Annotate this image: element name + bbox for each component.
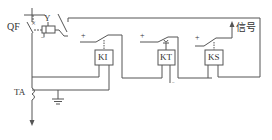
y-label: Y xyxy=(44,14,51,23)
circuit-diagram: × xyxy=(0,0,272,140)
ki-contact xyxy=(96,35,108,42)
switch-blade-2 xyxy=(58,14,67,32)
ki-box-label: KI xyxy=(98,53,108,62)
kt-minus-label: − xyxy=(172,80,175,85)
y-coil xyxy=(42,26,55,33)
ta-label: TA xyxy=(14,88,25,97)
ki-plus-label: + xyxy=(81,32,86,40)
arrow-down-icon xyxy=(30,120,35,126)
ks-box-label: KS xyxy=(208,53,220,62)
kt-contact xyxy=(158,37,168,42)
y-contact xyxy=(59,30,64,36)
kt-box-label: KT xyxy=(160,53,172,62)
signal-label: 信号 xyxy=(236,23,256,33)
svg-text:×: × xyxy=(31,19,36,26)
signal-arrow-icon xyxy=(230,21,235,27)
time-delay-icon xyxy=(163,40,169,43)
ks-plus-label: + xyxy=(195,34,200,42)
qf-label: QF xyxy=(7,22,20,32)
y-minus-label: − xyxy=(41,35,45,42)
kt-plus-label: + xyxy=(140,32,145,40)
